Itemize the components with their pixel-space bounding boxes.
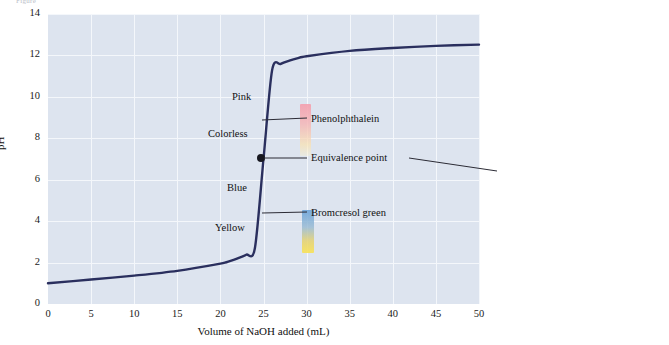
y-tick-8: 8 (0, 131, 40, 142)
y-tick-2: 2 (0, 256, 40, 267)
x-tick-15: 15 (162, 308, 192, 319)
y-tick-12: 12 (0, 48, 40, 59)
y-tick-4: 4 (0, 214, 40, 225)
annotation-colorless: Colorless (208, 128, 248, 139)
gridline-v-50 (479, 14, 480, 304)
equivalence-point-marker (257, 154, 265, 162)
x-tick-45: 45 (421, 308, 451, 319)
annotation-phenolphthalein: Phenolphthalein (311, 113, 379, 124)
y-tick-6: 6 (0, 173, 40, 184)
annotation-equivalence-point: Equivalence point (311, 152, 387, 163)
phenolphthalein-color-band (300, 104, 311, 156)
annotation-yellow: Yellow (215, 222, 245, 233)
annotation-pink: Pink (232, 91, 251, 102)
x-axis-label: Volume of NaOH added (mL) (48, 325, 479, 337)
annotation-bromcresol-green: Bromcresol green (311, 207, 386, 218)
x-tick-20: 20 (205, 308, 235, 319)
y-tick-10: 10 (0, 90, 40, 101)
caption-fragment: Figure (16, 0, 36, 5)
x-tick-30: 30 (292, 308, 322, 319)
y-tick-14: 14 (0, 7, 40, 18)
x-tick-25: 25 (249, 308, 279, 319)
y-axis-label: pH (0, 137, 6, 150)
x-tick-5: 5 (76, 308, 106, 319)
x-tick-10: 10 (119, 308, 149, 319)
x-tick-50: 50 (464, 308, 494, 319)
titration-figure: Figure 02468101214 05101520253035404550 … (0, 0, 669, 345)
x-tick-35: 35 (335, 308, 365, 319)
y-tick-0: 0 (0, 297, 40, 308)
x-tick-0: 0 (33, 308, 63, 319)
x-tick-40: 40 (378, 308, 408, 319)
annotation-blue: Blue (227, 182, 247, 193)
